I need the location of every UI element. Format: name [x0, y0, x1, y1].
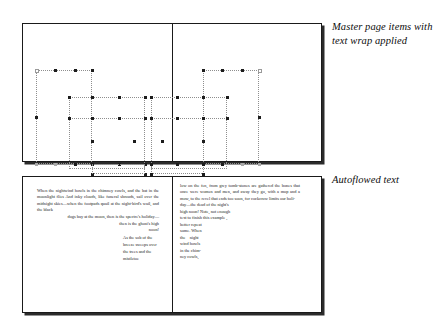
master-frame-left-bottom-strip[interactable] [92, 164, 145, 174]
frame-handle[interactable] [91, 69, 94, 72]
frame-handle[interactable] [133, 140, 136, 143]
frame-handle[interactable] [226, 117, 229, 120]
frame-handle[interactable] [74, 69, 77, 72]
frame-handle[interactable] [202, 117, 205, 120]
frame-handle[interactable] [241, 163, 244, 166]
frame-handle[interactable] [54, 69, 57, 72]
frame-handle[interactable] [176, 96, 179, 99]
text-block: text to finish this example , [180, 215, 300, 221]
frame-handle[interactable] [241, 69, 244, 72]
master-frame-right-lower[interactable] [151, 118, 227, 169]
frame-handle[interactable] [202, 69, 205, 72]
frame-handle[interactable] [176, 117, 179, 120]
frame-handle[interactable] [258, 116, 261, 119]
frame-handle[interactable] [118, 96, 121, 99]
frame-handle[interactable] [144, 96, 147, 99]
text-block: low on the fen, from grey tomb-stones ar… [180, 183, 300, 202]
text-column-left[interactable]: When the nightwind howls in the chimney … [37, 188, 159, 263]
frame-handle[interactable] [91, 96, 94, 99]
frame-handle[interactable] [54, 163, 57, 166]
frame-handle[interactable] [150, 96, 153, 99]
text-block: dogs bay at the moon, then is the spectr… [37, 214, 159, 220]
frame-handle[interactable] [68, 117, 71, 120]
page-spine-divider [172, 177, 173, 312]
frame-handle[interactable] [202, 96, 205, 99]
master-page-spread [22, 23, 322, 162]
frame-handle[interactable] [176, 163, 179, 166]
frame-handle[interactable] [118, 117, 121, 120]
text-block: When the nightwind howls in the chimney … [37, 188, 159, 214]
frame-handle[interactable] [91, 140, 94, 143]
master-frame-right-bottom-strip[interactable] [151, 164, 204, 174]
frame-handle[interactable] [221, 69, 224, 72]
frame-handle[interactable] [258, 163, 261, 166]
caption-autoflowed-text: Autoflowed text [332, 173, 443, 187]
caption-master-page-items: Master page items with text wrap applied [332, 20, 443, 47]
text-block: As the sob of the breeze sweeps over the… [123, 234, 159, 263]
master-frame-left-lower[interactable] [69, 118, 145, 169]
frame-handle[interactable] [221, 163, 224, 166]
frame-handle[interactable] [35, 163, 38, 166]
frame-handle[interactable] [150, 163, 153, 166]
frame-handle[interactable] [161, 140, 164, 143]
text-block: ney cowls, [180, 254, 222, 260]
frame-handle[interactable] [91, 117, 94, 120]
frame-handle[interactable] [202, 140, 205, 143]
frame-handle[interactable] [35, 69, 39, 73]
frame-handle[interactable] [144, 117, 147, 120]
frame-handle[interactable] [74, 163, 77, 166]
frame-handle[interactable] [226, 96, 229, 99]
frame-handle[interactable] [35, 116, 38, 119]
frame-handle[interactable] [150, 117, 153, 120]
text-column-right[interactable]: low on the fen, from grey tomb-stones ar… [180, 183, 300, 260]
frame-handle[interactable] [258, 69, 262, 73]
frame-handle[interactable] [202, 163, 205, 166]
frame-handle[interactable] [68, 96, 71, 99]
